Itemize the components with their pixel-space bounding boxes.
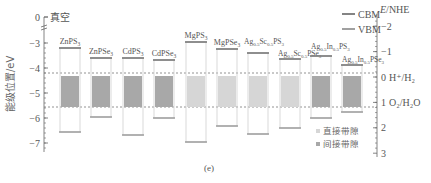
panel-label: (e)	[204, 163, 214, 173]
right-tick-label: 1	[381, 97, 386, 108]
material-label: MgPSe3	[214, 38, 241, 48]
material-bar: ZnPSe3	[89, 47, 113, 117]
material-bar: MgPSe3	[214, 38, 241, 126]
right-tick-label: 0	[381, 72, 386, 83]
left-tick-label: −4	[29, 63, 40, 74]
material-bar: Ag0.5In0.5PSe3	[341, 55, 385, 112]
left-tick-label: −5	[29, 88, 40, 99]
left-tick-label: −6	[29, 113, 40, 124]
legend-direct-gap: 直接带隙	[323, 126, 359, 136]
legend-cbm: CBM	[358, 9, 380, 20]
right-tick-label: 3	[381, 148, 386, 159]
h-plus-h2-label: H⁺/H₂	[389, 72, 415, 83]
right-axis-label: E/NHE	[379, 4, 409, 15]
legend-indirect-gap: 间接带隙	[323, 139, 359, 149]
vacuum-label: 真空	[50, 11, 70, 23]
material-label: Ag0.5Sc0.5PS3	[244, 37, 285, 47]
material-bar: MgPS3	[185, 31, 208, 142]
material-bar: CdPSe3	[152, 49, 177, 118]
left-tick-label: −3	[29, 38, 40, 49]
material-bar: ZnPS3	[59, 37, 81, 132]
legend-vbm: VBM	[358, 24, 381, 35]
left-tick-label: −7	[29, 138, 40, 149]
y-axis-label: 能级位置/eV	[4, 55, 16, 112]
material-label: MgPS3	[185, 31, 208, 41]
right-tick-label: −1	[381, 46, 392, 57]
material-label: Ag0.5In0.5PS3	[311, 42, 350, 52]
right-tick-label: −2	[381, 21, 392, 32]
material-label: Ag0.5In0.5PSe3	[342, 55, 385, 65]
material-label: CdPSe3	[152, 49, 177, 59]
material-bar: CdPS3	[122, 47, 144, 135]
material-label: CdPS3	[123, 47, 144, 57]
material-label: ZnPSe3	[89, 47, 113, 57]
o2-h2o-label: O₂/H₂O	[389, 97, 420, 108]
left-energy-axis: 0−3−4−5−6−7	[29, 12, 48, 153]
left-tick-label: 0	[35, 12, 40, 23]
material-label: ZnPS3	[60, 37, 81, 47]
band-alignment-chart: 0−3−4−5−6−7 −2−10123E/NHE H⁺/H₂O₂/H₂O Zn…	[0, 0, 431, 183]
right-tick-label: 2	[381, 122, 386, 133]
